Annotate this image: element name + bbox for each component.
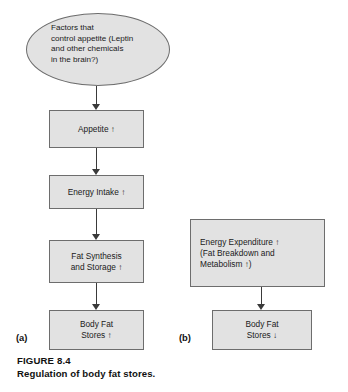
arrow-shaft xyxy=(96,86,98,104)
figure-caption-text: Regulation of body fat stores. xyxy=(17,368,337,381)
arrow-shaft xyxy=(96,209,98,234)
arrow-appetite-to-energy-intake xyxy=(92,148,101,175)
node-energy-intake-label: Energy Intake ↑ xyxy=(64,187,130,198)
figure-caption: FIGURE 8.4 Regulation of body fat stores… xyxy=(17,355,337,380)
arrow-shaft xyxy=(261,287,263,304)
panel-label-a: (a) xyxy=(16,332,27,343)
node-energy-expenditure: Energy Expenditure ↑ (Fat Breakdown and … xyxy=(190,219,325,287)
node-body-fat-stores-decrease: Body Fat Stores ↓ xyxy=(212,310,312,350)
arrow-energy-expenditure-to-body-fat-stores xyxy=(257,287,266,310)
arrow-shaft xyxy=(96,283,98,304)
panel-label-b: (b) xyxy=(179,332,191,343)
node-energy-expenditure-label: Energy Expenditure ↑ (Fat Breakdown and … xyxy=(191,237,283,270)
node-fat-synthesis-and-storage-label: Fat Synthesis and Storage ↑ xyxy=(67,251,127,273)
figure-number: FIGURE 8.4 xyxy=(17,355,337,368)
arrow-factors-to-appetite xyxy=(92,86,101,110)
node-body-fat-stores-decrease-label: Body Fat Stores ↓ xyxy=(241,319,282,341)
node-body-fat-stores-increase: Body Fat Stores ↑ xyxy=(49,310,144,350)
arrow-energy-intake-to-fat-synthesis xyxy=(92,209,101,240)
figure-canvas: Factors that control appetite (Leptin an… xyxy=(0,0,348,392)
node-energy-intake: Energy Intake ↑ xyxy=(49,175,144,209)
node-factors-controlling-appetite: Factors that control appetite (Leptin an… xyxy=(26,13,170,86)
node-appetite: Appetite ↑ xyxy=(49,110,144,148)
arrow-shaft xyxy=(96,148,98,169)
arrow-fat-synthesis-to-body-fat-stores xyxy=(92,283,101,310)
node-factors-controlling-appetite-label: Factors that control appetite (Leptin an… xyxy=(51,23,173,65)
node-appetite-label: Appetite ↑ xyxy=(74,124,119,135)
node-body-fat-stores-increase-label: Body Fat Stores ↑ xyxy=(76,319,117,341)
node-fat-synthesis-and-storage: Fat Synthesis and Storage ↑ xyxy=(49,240,144,283)
